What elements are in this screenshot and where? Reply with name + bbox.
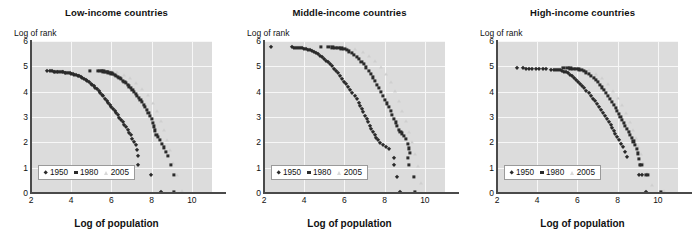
data-point-1980 <box>408 151 411 154</box>
y-tick-label: 6 <box>480 36 494 46</box>
legend-item-2005: 2005 <box>104 168 129 177</box>
data-point-1980 <box>637 157 640 160</box>
x-axis-label: Log of population <box>466 218 699 229</box>
data-point-1950 <box>394 174 399 179</box>
data-point-1980 <box>394 121 397 124</box>
data-point-2005 <box>122 73 126 76</box>
data-point-2005 <box>404 120 408 123</box>
legend-item-1950: 1950 <box>510 168 534 177</box>
gridline-horizontal <box>31 92 212 93</box>
legend-item-2005: 2005 <box>337 168 362 177</box>
chart-figure-row: Low-income countries Log of rank 6543210… <box>0 0 699 233</box>
y-tick-label: 5 <box>247 61 261 71</box>
y-tick-label: 2 <box>480 137 494 147</box>
data-point-2005 <box>620 104 624 107</box>
data-point-1980 <box>152 125 155 128</box>
data-point-2005 <box>168 149 172 152</box>
y-tick-label: 4 <box>247 87 261 97</box>
y-tick-label: 3 <box>247 112 261 122</box>
legend-item-1950: 1950 <box>277 168 301 177</box>
x-tick-label: 4 <box>69 195 74 205</box>
y-tick-label: 3 <box>480 112 494 122</box>
x-tick-label: 8 <box>615 195 620 205</box>
data-point-1980 <box>379 90 382 93</box>
gridline-horizontal <box>264 66 445 67</box>
data-point-1980 <box>635 147 638 150</box>
legend-item-1980: 1980 <box>540 168 564 177</box>
data-point-1980 <box>406 156 409 159</box>
data-point-2005 <box>159 119 163 122</box>
data-point-2005 <box>624 112 628 115</box>
data-point-2005 <box>384 72 388 75</box>
data-point-1980 <box>646 173 649 176</box>
data-point-2005 <box>373 59 377 62</box>
x-tick-label: 6 <box>575 195 580 205</box>
y-tick-label: 3 <box>14 112 28 122</box>
data-point-1980 <box>389 109 392 112</box>
x-axis-line <box>263 192 459 194</box>
x-axis-ticks: 246810 <box>0 195 233 209</box>
y-tick-label: 4 <box>480 87 494 97</box>
data-point-2005 <box>397 99 401 102</box>
x-axis-label: Log of population <box>233 218 466 229</box>
x-tick-label: 2 <box>262 195 267 205</box>
data-point-2005 <box>400 109 404 112</box>
data-point-1950 <box>386 147 391 152</box>
data-point-2005 <box>389 81 393 84</box>
x-tick-label: 10 <box>420 195 429 205</box>
data-point-2005 <box>616 96 620 99</box>
y-tick-label: 1 <box>480 163 494 173</box>
data-point-2005 <box>419 181 423 184</box>
gridline-horizontal <box>31 66 212 67</box>
data-point-1980 <box>327 45 330 48</box>
data-point-2005 <box>146 94 150 97</box>
data-point-1980 <box>377 87 380 90</box>
data-point-1980 <box>88 69 91 72</box>
x-tick-label: 8 <box>382 195 387 205</box>
legend-item-1950: 1950 <box>44 168 68 177</box>
gridline-horizontal <box>497 41 678 42</box>
data-point-1950 <box>514 66 519 71</box>
data-point-2005 <box>631 128 635 131</box>
y-tick-label: 2 <box>247 137 261 147</box>
legend-label: 1980 <box>80 168 98 177</box>
x-axis-line <box>30 192 226 194</box>
page-title: Middle-income countries <box>233 7 466 18</box>
y-axis-line <box>496 40 498 194</box>
triangle-marker-icon <box>570 171 574 175</box>
legend-label: 1950 <box>516 168 534 177</box>
data-point-2005 <box>162 129 166 132</box>
chart-legend-2: 195019802005 <box>504 165 601 180</box>
data-point-1980 <box>381 94 384 97</box>
legend-label: 2005 <box>111 168 129 177</box>
y-tick-label: 5 <box>480 61 494 71</box>
data-point-1980 <box>407 164 410 167</box>
y-axis-line <box>263 40 265 194</box>
data-point-2005 <box>410 141 414 144</box>
data-point-1980 <box>154 129 157 132</box>
data-point-1980 <box>392 117 395 120</box>
data-point-2005 <box>155 110 159 113</box>
data-point-2005 <box>379 65 383 68</box>
gridline-horizontal <box>264 117 445 118</box>
triangle-marker-icon <box>104 171 108 175</box>
x-tick-label: 4 <box>302 195 307 205</box>
gridline-horizontal <box>31 41 212 42</box>
legend-label: 1950 <box>283 168 301 177</box>
gridline-horizontal <box>264 41 445 42</box>
data-point-2005 <box>367 54 371 57</box>
x-tick-label: 6 <box>342 195 347 205</box>
chart-legend-1: 195019802005 <box>271 165 368 180</box>
y-tick-label: 1 <box>247 163 261 173</box>
square-marker-icon <box>74 171 77 174</box>
data-point-2005 <box>594 72 598 75</box>
legend-label: 2005 <box>577 168 595 177</box>
data-point-2005 <box>407 130 411 133</box>
data-point-1950 <box>391 155 396 160</box>
data-point-2005 <box>128 77 132 80</box>
data-point-1980 <box>387 106 390 109</box>
data-point-1980 <box>406 142 409 145</box>
x-tick-label: 8 <box>149 195 154 205</box>
y-axis-line <box>30 40 32 194</box>
data-point-1980 <box>633 143 636 146</box>
